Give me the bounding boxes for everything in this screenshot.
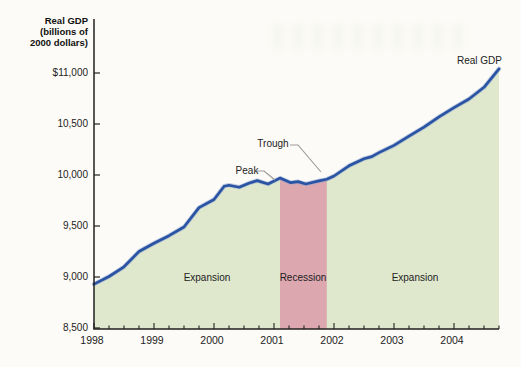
y-axis-title: Real GDP (billions of 2000 dollars) [8,15,88,48]
y-axis-title-line2: (billions of [8,26,88,37]
y-tick-label-8500: 8,500 [36,322,88,334]
x-tick-label-2000: 2000 [192,334,232,346]
y-tick-label-9000: 9,000 [36,271,88,283]
x-tick-label-2002: 2002 [312,334,352,346]
real-gdp-series-label: Real GDP [436,55,502,67]
region-label-expansion-2: Expansion [373,272,457,284]
y-tick-label-9500: 9,500 [36,220,88,232]
region-label-recession: Recession [261,272,345,284]
peak-annotation-label: Peak [221,165,273,177]
y-tick-label-11000: $11,000 [36,67,88,79]
y-tick-label-10000: 10,000 [36,169,88,181]
y-axis-title-line1: Real GDP [8,15,88,26]
trough-annotation-label: Trough [247,138,299,150]
x-tick-label-1998: 1998 [72,334,112,346]
x-tick-label-2001: 2001 [252,334,292,346]
x-tick-label-2004: 2004 [432,334,472,346]
y-axis-title-line3: 2000 dollars) [8,37,88,48]
x-tick-label-2003: 2003 [372,334,412,346]
region-label-expansion-1: Expansion [165,272,249,284]
gdp-chart-figure: Real GDP (billions of 2000 dollars) $11,… [0,0,521,367]
y-tick-label-10500: 10,500 [36,118,88,130]
x-tick-label-1999: 1999 [132,334,172,346]
